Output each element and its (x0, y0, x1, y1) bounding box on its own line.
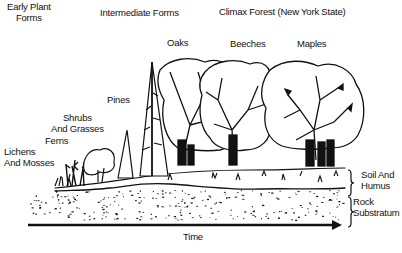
rock-speckle (175, 216, 176, 217)
rock-speckle (89, 219, 90, 220)
rock-speckle (179, 206, 181, 207)
rock-speckle (79, 208, 80, 209)
rock-speckle (268, 218, 270, 219)
rock-speckle (143, 212, 145, 213)
rock-speckle (278, 198, 280, 199)
rock-speckle (162, 193, 164, 194)
rock-speckle (44, 214, 46, 215)
rock-speckle (316, 214, 317, 215)
maple-tree-drawing (262, 61, 364, 166)
rock-speckle (279, 211, 280, 212)
rock-speckle (336, 199, 337, 200)
rock-speckle (114, 219, 115, 220)
rock-speckles (30, 190, 345, 221)
rock-speckle (131, 195, 133, 196)
rock-speckle (300, 205, 302, 206)
rock-speckle (56, 191, 58, 192)
rock-speckle (69, 202, 71, 203)
rock-speckle (74, 199, 76, 200)
rock-speckle (161, 206, 162, 207)
rock-speckle (329, 200, 331, 201)
soil-bracket (348, 170, 354, 196)
rock-speckle (228, 197, 230, 198)
rock-speckle (114, 201, 115, 202)
rock-speckle (165, 218, 166, 219)
rock-speckle (106, 206, 108, 207)
rock-speckle (244, 212, 246, 213)
rock-speckle (41, 202, 42, 203)
label-rock-line-2: Substratum (353, 208, 400, 219)
rock-speckle (124, 219, 126, 220)
rock-speckle (144, 198, 145, 199)
rock-speckle (210, 217, 211, 218)
rock-speckle (162, 197, 164, 198)
rock-speckle (180, 210, 182, 211)
rock-speckle (103, 199, 105, 200)
rock-speckle (329, 213, 330, 214)
header-early-line-2: Forms (7, 13, 51, 24)
label-lichens-line-2: And Mosses (4, 158, 54, 169)
rock-speckle (139, 197, 141, 198)
rock-speckle (115, 213, 117, 214)
rock-speckle (342, 203, 344, 204)
rock-speckle (305, 215, 306, 216)
rock-speckle (338, 201, 340, 202)
rock-speckle (140, 216, 142, 217)
rock-speckle (141, 201, 142, 202)
rock-speckle (295, 193, 296, 194)
rock-speckle (177, 220, 179, 221)
rock-speckle (321, 202, 323, 203)
rock-speckle (242, 199, 244, 200)
rock-speckle (94, 212, 95, 213)
rock-speckle (281, 211, 282, 212)
rock-speckle (169, 193, 171, 194)
rock-speckle (35, 214, 37, 215)
rock-speckle (101, 207, 103, 208)
rock-speckle (121, 209, 123, 210)
rock-speckle (252, 215, 254, 216)
rock-speckle (231, 210, 232, 211)
rock-speckle (139, 211, 141, 212)
rock-speckle (118, 191, 120, 192)
label-shrubs-grasses: Shrubs And Grasses (51, 113, 104, 134)
rock-speckle (139, 219, 141, 220)
rock-speckle (38, 200, 40, 201)
rock-speckle (52, 197, 53, 198)
rock-speckle (333, 216, 334, 217)
rock-speckle (309, 203, 311, 204)
rock-speckle (36, 200, 37, 201)
label-soil-line-2: Humus (361, 181, 394, 192)
rock-speckle (104, 197, 105, 198)
rock-speckle (269, 192, 270, 193)
rock-speckle (298, 191, 299, 192)
rock-speckle (252, 190, 253, 191)
rock-speckle (89, 216, 91, 217)
rock-speckle (278, 218, 280, 219)
rock-speckle (252, 206, 253, 207)
rock-speckle (73, 202, 75, 203)
rock-speckle (102, 215, 103, 216)
rock-speckle (337, 195, 338, 196)
rock-speckle (57, 194, 58, 195)
rock-speckle (188, 206, 189, 207)
rock-speckle (73, 197, 75, 198)
rock-speckle (138, 203, 140, 204)
rock-speckle (86, 192, 88, 193)
rock-speckle (153, 191, 154, 192)
rock-speckle (73, 198, 75, 199)
rock-speckle (181, 215, 183, 216)
rock-speckle (225, 194, 226, 195)
rock-speckle (205, 206, 207, 207)
rock-speckle (135, 200, 137, 201)
rock-speckle (118, 205, 119, 206)
rock-speckle (215, 219, 216, 220)
rock-speckle (207, 199, 209, 200)
ferns-drawing (66, 160, 86, 186)
header-climax-forest: Climax Forest (New York State) (219, 7, 346, 18)
rock-speckle (314, 193, 315, 194)
rock-speckle (122, 194, 123, 195)
label-shrubs-line-1: Shrubs (51, 113, 104, 124)
rock-speckle (175, 218, 177, 219)
label-beeches: Beeches (230, 39, 266, 50)
rock-speckle (110, 204, 111, 205)
